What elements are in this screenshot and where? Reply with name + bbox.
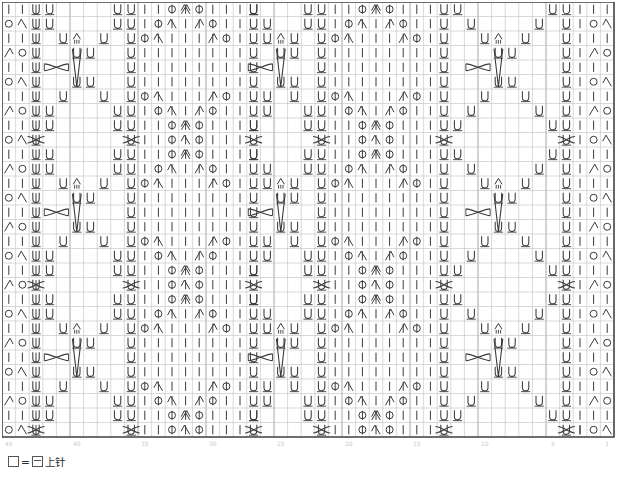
legend-equals: =: [21, 456, 30, 468]
legend-purl-box-icon: [32, 456, 43, 467]
legend-key: =上针: [8, 454, 65, 469]
chart-svg: 151015202530354045: [2, 2, 617, 453]
legend-key-label: 上针: [45, 456, 65, 468]
knitting-chart-grid: 151015202530354045: [2, 2, 617, 453]
knitting-chart-page: 151015202530354045 =上针 中心 中心（左右对称排列） 10 …: [0, 0, 631, 477]
legend-empty-box-icon: [8, 456, 19, 467]
chart-footer-legend: =上针 中心 中心（左右对称排列） 10 行 1 个花样: [0, 438, 631, 477]
